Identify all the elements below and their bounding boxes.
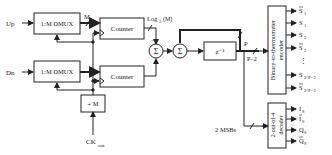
decoder-label-2: decoder: [278, 116, 284, 135]
p-bus-label: P: [244, 40, 248, 47]
input-dn-label: Dn: [6, 69, 15, 77]
enc-out-1: S: [299, 7, 303, 14]
clock-label: CK: [86, 138, 96, 146]
sum2-label: Σ: [178, 47, 183, 56]
encoder-label-1: Binary-to-thermometer: [269, 19, 276, 80]
dmux-bottom-label: 1:M DMUX: [41, 68, 74, 75]
svg-text:2^P−2: 2^P−2: [304, 75, 316, 80]
svg-text:2^P−2: 2^P−2: [304, 88, 316, 93]
svg-text:2: 2: [304, 48, 306, 53]
dec-out-is: I: [299, 105, 301, 112]
svg-text:S: S: [304, 130, 307, 135]
counter-top-label: Counter: [111, 25, 134, 33]
enc-out-6: S: [299, 84, 303, 91]
p-minus-2-label: P−2: [247, 56, 257, 62]
svg-text:S: S: [304, 141, 307, 146]
log2m-sub: 2: [159, 19, 161, 24]
delay-label: z⁻¹: [215, 48, 224, 56]
svg-text:S: S: [302, 109, 305, 114]
divider-label: ÷ M: [88, 100, 99, 107]
svg-text:1: 1: [304, 23, 306, 28]
dec-out-is-bar: I: [299, 115, 301, 122]
counter-bottom-label: Counter: [111, 73, 134, 81]
encoder-label-2: encoder: [277, 39, 284, 60]
enc-out-5: S: [299, 71, 303, 78]
clock-sub-label: out: [98, 143, 105, 148]
minus-sign: −: [151, 37, 155, 43]
dmux-top-label: 1:M DMUX: [41, 20, 74, 27]
enc-out-3: S: [299, 31, 303, 38]
svg-text:S: S: [302, 119, 305, 124]
two-msbs-label: 2 MSBs: [215, 126, 237, 133]
decoder-label-1: 2-out-of-4: [270, 113, 276, 138]
block-diagram: Up Dn 1:M DMUX 1:M DMUX M Counter Counte…: [0, 0, 332, 155]
sum1-label: Σ: [154, 47, 159, 56]
enc-out-ellipsis: ⋮: [300, 57, 307, 64]
svg-text:2: 2: [304, 35, 306, 40]
enc-out-2: S: [299, 19, 303, 26]
input-up-label: Up: [6, 20, 15, 28]
log2m-label: Log: [147, 15, 158, 22]
m-bus-label: M: [84, 13, 90, 20]
enc-out-4: S: [299, 44, 303, 51]
svg-text:1: 1: [304, 11, 306, 16]
log2m-arg: (M): [163, 16, 172, 23]
